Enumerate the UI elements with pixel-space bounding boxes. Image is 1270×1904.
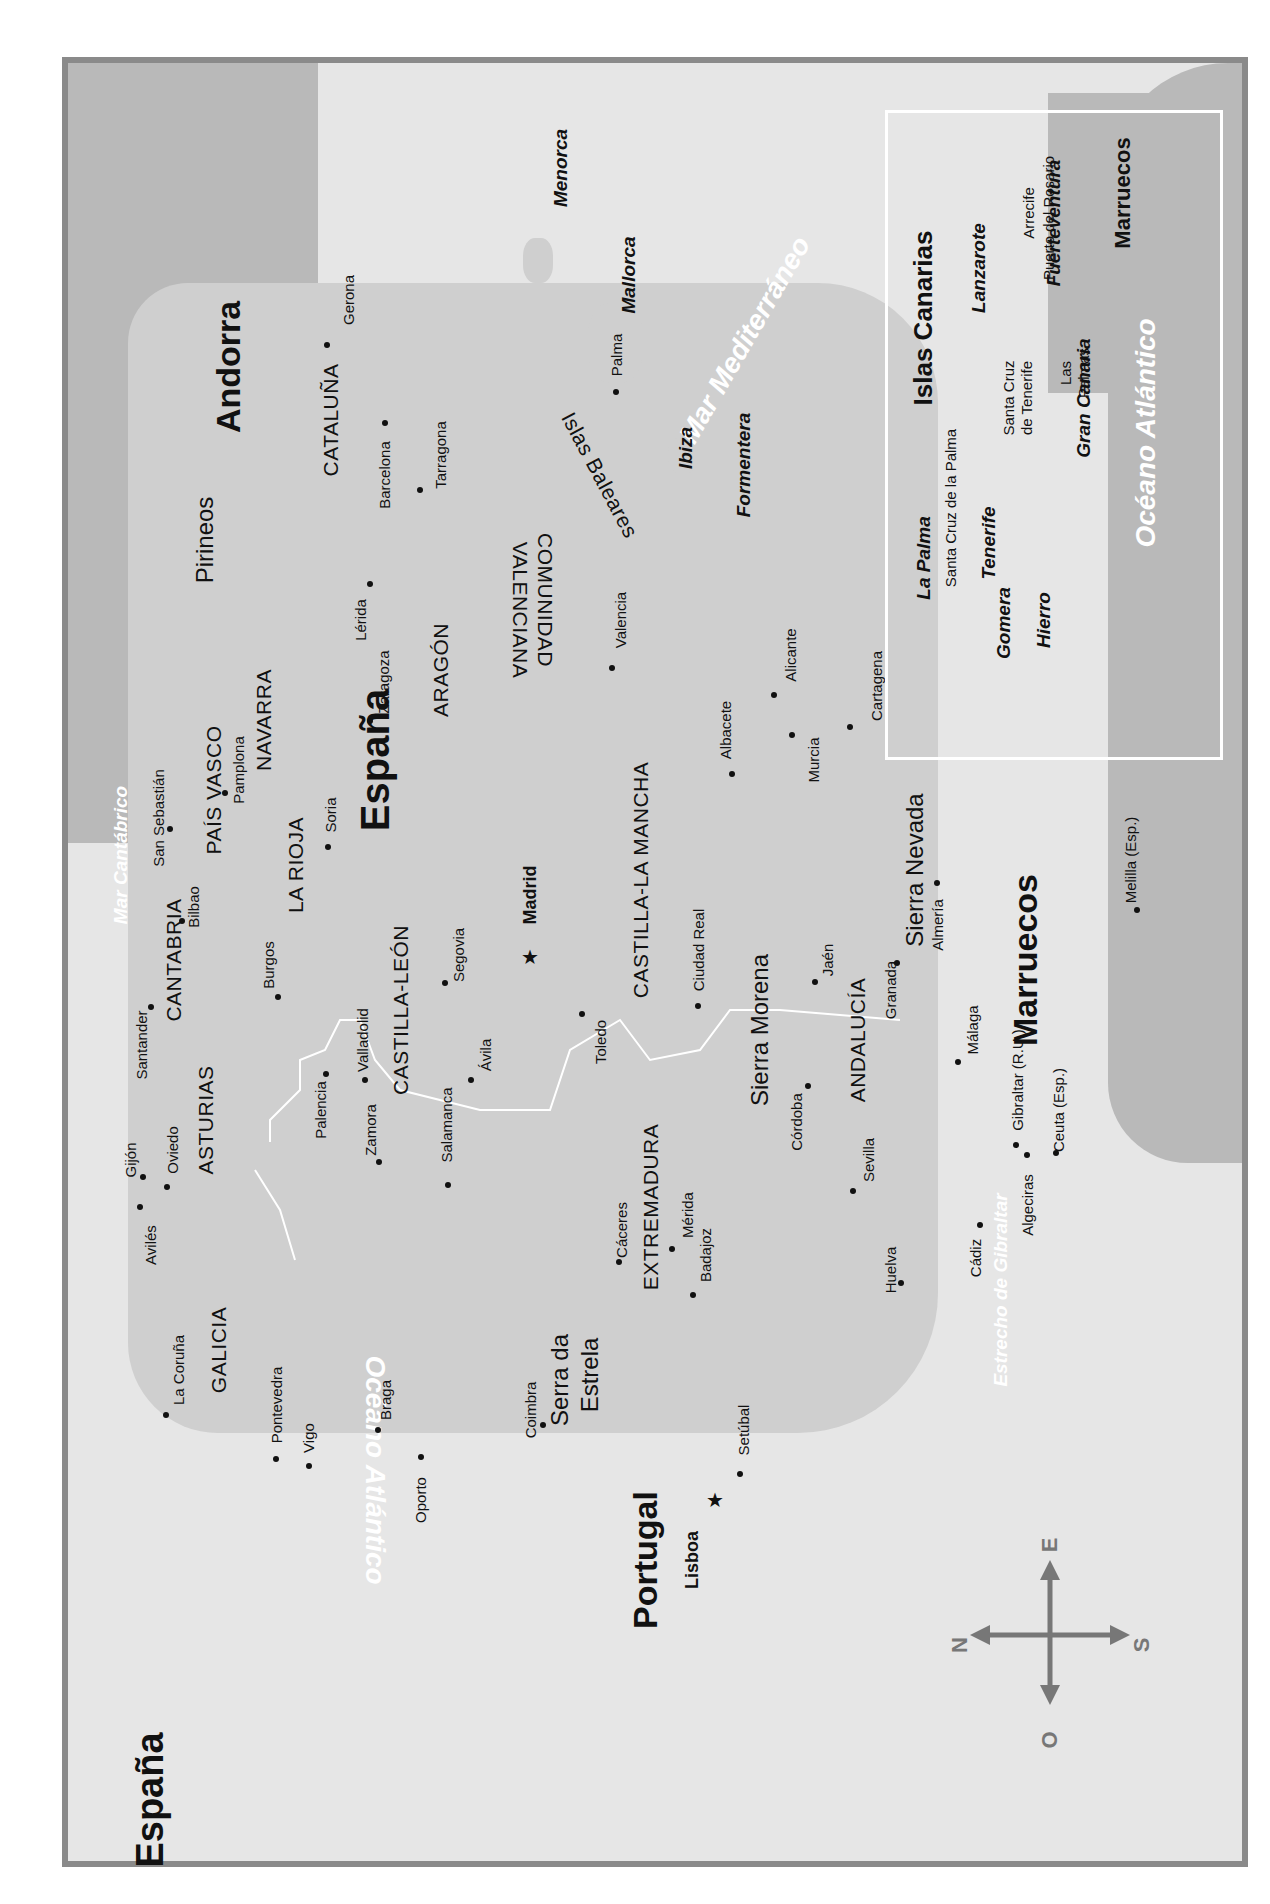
- inset-title-islas-canarias: Islas Canarias: [910, 231, 936, 406]
- city-label-merida: Mérida: [680, 1192, 695, 1238]
- city-dot: [222, 790, 228, 796]
- city-label-barcelona: Barcelona: [377, 441, 392, 509]
- canarias-inset: Islas Canarias La Palma Tenerife Gomera …: [885, 110, 1223, 760]
- city-dot: [695, 1003, 701, 1009]
- city-dot: [163, 1412, 169, 1418]
- city-label-toledo: Toledo: [593, 1020, 608, 1064]
- range-label-pirineos: Pirineos: [193, 497, 217, 584]
- city-label-palencia: Palencia: [313, 1081, 328, 1139]
- range-label-sierra-nevada: Sierra Nevada: [903, 793, 927, 946]
- city-label-jaen: Jaén: [820, 944, 835, 977]
- city-label-santander: Santander: [134, 1010, 149, 1079]
- city-label-lerida: Lérida: [353, 599, 368, 641]
- city-dot: [275, 994, 281, 1000]
- island-label-hierro: Hierro: [1034, 592, 1053, 648]
- island-label-formentera: Formentera: [734, 413, 753, 518]
- city-dot: [669, 1246, 675, 1252]
- island-label-tenerife: Tenerife: [979, 506, 998, 579]
- city-dot: [418, 1454, 424, 1460]
- capital-label-madrid: Madrid: [521, 865, 539, 924]
- water-label-atlantic-inset: Océano Atlántico: [1132, 318, 1160, 547]
- city-dot: [616, 1259, 622, 1265]
- city-dot: [789, 732, 795, 738]
- compass-label-o: O: [1039, 1731, 1061, 1748]
- city-label-setubal: Setúbal: [736, 1405, 751, 1456]
- city-label-cordoba: Córdoba: [789, 1093, 804, 1151]
- city-label-braga: Braga: [378, 1380, 393, 1420]
- country-label-marruecos: Marruecos: [1008, 874, 1042, 1046]
- city-label-ciudad-real: Ciudad Real: [691, 909, 706, 992]
- island-label-lanzarote: Lanzarote: [969, 223, 988, 313]
- city-label-palmas: Palmas: [1076, 348, 1091, 398]
- city-label-zaragoza: Zaragoza: [376, 650, 391, 713]
- island-label-gomera: Gomera: [994, 587, 1013, 659]
- city-label-oporto: Oporto: [413, 1477, 428, 1523]
- city-label-segovia: Segovia: [451, 928, 466, 982]
- region-label-asturias: ASTURIAS: [195, 1065, 216, 1174]
- capital-label-lisboa: Lisboa: [683, 1531, 701, 1589]
- city-dot: [325, 844, 331, 850]
- city-dot: [367, 718, 373, 724]
- compass-rose-icon: [960, 1545, 1140, 1725]
- city-label-san-sebastian: San Sebastián: [151, 769, 166, 867]
- city-label-santa-cruz-de-la-palma: Santa Cruz de la Palma: [943, 429, 958, 587]
- city-label-avila: Ávila: [478, 1039, 493, 1072]
- city-label-pontevedra: Pontevedra: [269, 1367, 284, 1444]
- region-label-castilla-leon: CASTILLA-LEÓN: [390, 925, 411, 1095]
- city-label-alicante: Alicante: [783, 628, 798, 681]
- region-label-extremadura: EXTREMADURA: [640, 1124, 661, 1291]
- city-dot: [847, 724, 853, 730]
- city-label-arrecife: Arrecife: [1021, 187, 1036, 239]
- city-label-las: Las: [1058, 361, 1073, 385]
- city-dot: [137, 1204, 143, 1210]
- compass-label-n: N: [949, 1637, 971, 1653]
- city-dot: [442, 980, 448, 986]
- water-label-cantabrico: Mar Cantábrico: [111, 786, 130, 924]
- city-dot: [375, 1427, 381, 1433]
- country-label-andorra: Andorra: [211, 301, 245, 433]
- region-label-valenciana: VALENCIANA: [510, 542, 531, 679]
- city-label-la-coruna: La Coruña: [171, 1335, 186, 1405]
- city-label-sevilla: Sevilla: [861, 1138, 876, 1182]
- city-dot: [540, 1422, 546, 1428]
- city-dot: [417, 487, 423, 493]
- region-label-cataluna: CATALUÑA: [320, 364, 341, 477]
- city-dot: [367, 581, 373, 587]
- city-dot: [850, 1188, 856, 1194]
- city-label-tarragona: Tarragona: [433, 421, 448, 489]
- range-label-serra-da: Serra da: [548, 1334, 572, 1426]
- city-dot: [805, 1083, 811, 1089]
- title-espana: España: [131, 1732, 169, 1867]
- region-label-comunidad: COMUNIDAD: [535, 533, 556, 667]
- city-dot: [468, 1077, 474, 1083]
- city-label-malaga: Málaga: [965, 1005, 980, 1054]
- water-label-gibraltar: Estrecho de Gibraltar: [991, 1193, 1010, 1386]
- city-label-melilla: Melilla (Esp.): [1123, 817, 1138, 904]
- city-dot: [609, 665, 615, 671]
- city-dot: [690, 1292, 696, 1298]
- country-label-marruecos-inset: Marruecos: [1112, 137, 1134, 248]
- region-label-andalucia: ANDALUCÍA: [847, 978, 868, 1103]
- region-label-aragon: ARAGÓN: [430, 623, 451, 717]
- city-dot: [977, 1222, 983, 1228]
- island-label-la-palma: La Palma: [914, 516, 933, 599]
- city-label-caceres: Cáceres: [614, 1202, 629, 1258]
- city-label-almeria: Almería: [930, 899, 945, 951]
- city-label-bilbao: Bilbao: [186, 886, 201, 928]
- island-label-ibiza: Ibiza: [676, 427, 695, 469]
- city-label-badajoz: Badajoz: [698, 1228, 713, 1282]
- city-label-murcia: Murcia: [806, 737, 821, 782]
- compass-label-e: E: [1039, 1538, 1061, 1553]
- city-label-salamanca: Salamanca: [439, 1087, 454, 1162]
- city-label-huelva: Huelva: [883, 1247, 898, 1294]
- range-label-estrela: Estrela: [578, 1338, 602, 1413]
- city-label-valencia: Valencia: [613, 592, 628, 648]
- city-dot: [812, 979, 818, 985]
- region-label-la-rioja: LA RIOJA: [285, 817, 306, 913]
- country-label-portugal: Portugal: [628, 1491, 662, 1629]
- city-label-algeciras: Algeciras: [1020, 1174, 1035, 1236]
- city-label-cartagena: Cartagena: [869, 651, 884, 721]
- city-dot: [1134, 907, 1140, 913]
- city-label-burgos: Burgos: [261, 941, 276, 989]
- city-label-gerona: Gerona: [341, 275, 356, 325]
